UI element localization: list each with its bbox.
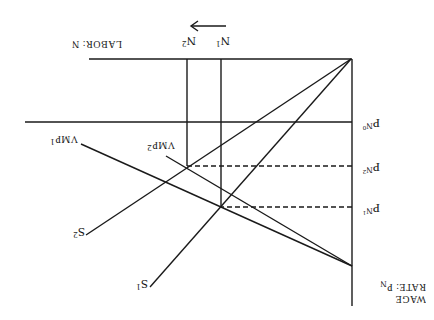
y-axis-label-line1: WAGE — [395, 294, 426, 305]
n1-label: N1 — [216, 34, 230, 49]
x-axis-label: LABOR: N — [72, 39, 122, 50]
pn1-label: PN1 — [362, 201, 380, 217]
n2-label: N2 — [182, 34, 196, 49]
s1-label: S1 — [136, 277, 148, 292]
pn0-label: PN0 — [362, 116, 380, 132]
labor-market-diagram: WAGE RATE: PN LABOR: N PN1 PN2 PN0 N1 N2… — [0, 0, 434, 320]
pn2-label: PN2 — [362, 160, 380, 176]
vmp1-curve — [81, 144, 352, 266]
shift-arrow-icon — [191, 21, 226, 31]
vmp1-label: VMP1 — [50, 134, 78, 147]
y-axis-label-line2: RATE: PN — [380, 279, 426, 293]
vmp2-label: VMP2 — [147, 140, 175, 153]
vmp2-curve — [166, 156, 352, 266]
diagram-stage: WAGE RATE: PN LABOR: N PN1 PN2 PN0 N1 N2… — [0, 0, 434, 320]
s2-label: S2 — [73, 225, 85, 240]
